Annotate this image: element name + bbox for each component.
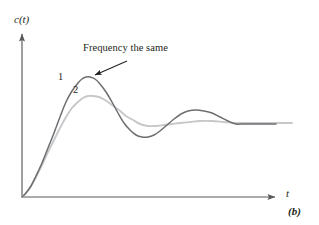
y-axis-label: c(t): [14, 14, 29, 25]
annotation-arrow-icon: [95, 61, 127, 75]
annotation-leader-group: [95, 61, 127, 75]
curve-1-label: 1: [58, 72, 63, 83]
curves-group: [22, 77, 292, 197]
figure-container: c(t) t Frequency the same 1 2 (b): [0, 0, 319, 225]
plot-canvas: [0, 0, 319, 225]
curve-2-label: 2: [73, 85, 78, 96]
figure-caption: (b): [288, 206, 301, 217]
annotation-label: Frequency the same: [83, 43, 168, 54]
x-axis-label: t: [286, 188, 289, 199]
response-curve-1: [22, 77, 276, 197]
